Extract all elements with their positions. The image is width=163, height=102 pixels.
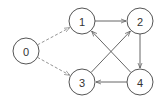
node-0: 0 xyxy=(13,38,39,64)
node-label: 2 xyxy=(137,16,143,28)
nodes: 01234 xyxy=(13,8,153,95)
edge-0-to-3 xyxy=(37,57,69,75)
node-label: 0 xyxy=(23,46,29,58)
edge-3-to-2 xyxy=(91,31,130,72)
node-label: 4 xyxy=(137,77,143,89)
node-1: 1 xyxy=(69,8,95,34)
edge-4-to-1 xyxy=(92,31,131,72)
node-4: 4 xyxy=(127,69,153,95)
node-label: 1 xyxy=(79,16,85,28)
node-label: 3 xyxy=(79,77,85,89)
node-3: 3 xyxy=(69,69,95,95)
node-2: 2 xyxy=(127,8,153,34)
graph-diagram: 01234 xyxy=(0,0,163,102)
edge-0-to-1 xyxy=(37,28,69,45)
